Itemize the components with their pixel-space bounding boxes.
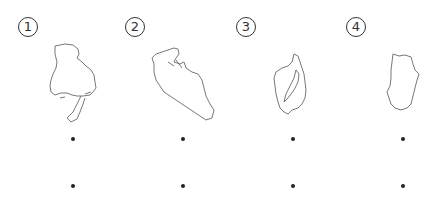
bullet-2b <box>181 184 185 188</box>
bullet-4b <box>401 184 405 188</box>
item-3-number: 3 <box>236 17 256 37</box>
bullet-3b <box>291 184 295 188</box>
item-1-number: 1 <box>18 17 38 37</box>
map-outline-1 <box>45 40 105 125</box>
map-outline-3 <box>272 52 317 116</box>
item-2-number: 2 <box>125 17 145 37</box>
bullet-3a <box>291 137 295 141</box>
map-outline-2 <box>148 46 218 124</box>
bullet-2a <box>181 137 185 141</box>
item-4-number: 4 <box>346 17 366 37</box>
bullet-4a <box>401 137 405 141</box>
bullet-1b <box>71 184 75 188</box>
bullet-1a <box>71 137 75 141</box>
map-outline-4 <box>385 52 425 116</box>
